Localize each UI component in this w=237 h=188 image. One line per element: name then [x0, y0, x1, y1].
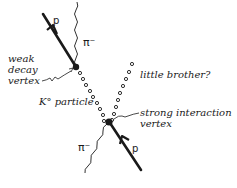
proton-out-label: p	[53, 15, 59, 26]
proton-in-label: p	[132, 143, 138, 154]
strong-vertex-pointer	[114, 113, 139, 119]
k-particle-label: K° particle	[38, 96, 94, 107]
particle-interaction-diagram: p π⁻ weak decay vertex K° particle littl…	[0, 0, 237, 188]
proton-out-track	[43, 14, 76, 67]
pion-out-label: π⁻	[83, 36, 96, 49]
strong-vertex-label: strong interaction vertex	[140, 107, 235, 129]
little-brother-label: little brother?	[140, 69, 211, 80]
weak-vertex-pointer	[42, 71, 71, 81]
pion-out-track	[75, 2, 78, 66]
pion-in-label: π⁻	[78, 141, 91, 154]
weak-decay-vertex	[73, 64, 79, 70]
weak-vertex-label: weak decay vertex	[8, 53, 41, 86]
little-brother-track	[110, 62, 133, 121]
